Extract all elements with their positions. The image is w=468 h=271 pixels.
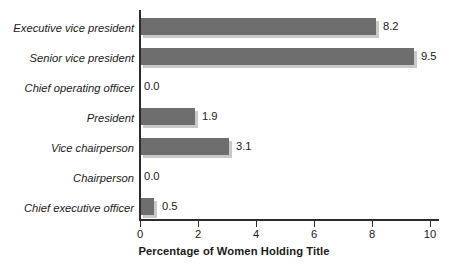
bar-executive-vice-president: [140, 18, 376, 35]
bar-value-label: 1.9: [202, 109, 218, 124]
category-label: Chief executive officer: [0, 202, 134, 215]
category-label: Chairperson: [0, 172, 134, 185]
bar-value-label: 9.5: [421, 49, 437, 64]
bar-value-label: 0.5: [162, 199, 178, 214]
category-label: Executive vice president: [0, 22, 134, 35]
bar-vice-chairperson: [140, 138, 229, 155]
x-axis-tick-label: 4: [244, 228, 268, 241]
bar-chart: Executive vice president Senior vice pre…: [0, 0, 468, 271]
x-axis-tick-label: 0: [128, 228, 152, 241]
category-label: Vice chairperson: [0, 142, 134, 155]
bar-value-label: 0.0: [144, 169, 160, 184]
bar-chief-executive-officer: [140, 198, 154, 215]
x-axis-tick-label: 6: [302, 228, 326, 241]
bar-value-label: 8.2: [383, 19, 399, 34]
x-axis-tick: [256, 221, 257, 227]
category-label: President: [0, 112, 134, 125]
x-axis-tick-label: 2: [186, 228, 210, 241]
plot-area: 8.2 9.5 0.0 1.9 3.1 0.0 0.5: [140, 10, 431, 219]
category-label: Chief operating officer: [0, 82, 134, 95]
bar-president: [140, 108, 195, 125]
x-axis-tick-label: 10: [418, 228, 442, 241]
bar-senior-vice-president: [140, 48, 414, 65]
x-axis-tick: [430, 221, 431, 227]
x-axis-line: [139, 219, 439, 221]
y-axis-line: [139, 10, 141, 220]
x-axis-tick: [314, 221, 315, 227]
bar-value-label: 0.0: [144, 79, 160, 94]
x-axis-tick-label: 8: [360, 228, 384, 241]
x-axis-tick: [140, 221, 141, 227]
x-axis-tick: [198, 221, 199, 227]
x-axis-title: Percentage of Women Holding Title: [0, 245, 468, 257]
bar-value-label: 3.1: [236, 139, 252, 154]
category-axis-labels: Executive vice president Senior vice pre…: [0, 10, 134, 219]
category-label: Senior vice president: [0, 52, 134, 65]
x-axis-tick: [372, 221, 373, 227]
